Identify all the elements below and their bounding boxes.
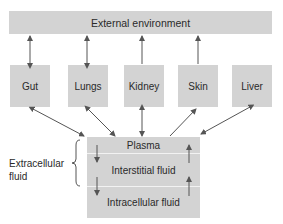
external-environment-box: External environment	[9, 11, 272, 34]
organ-gut: Gut	[10, 65, 50, 107]
organ-label: Skin	[188, 81, 207, 92]
organ-skin: Skin	[178, 65, 218, 107]
organ-label: Gut	[22, 81, 38, 92]
organ-label: Lungs	[74, 81, 101, 92]
arrow-plasma-skin	[170, 109, 196, 136]
extracellular-label-line2: fluid	[9, 170, 64, 183]
intracellular-layer: Intracellular fluid	[87, 187, 200, 218]
arrow-liver-plasma	[201, 107, 250, 134]
plasma-layer: Plasma	[87, 137, 200, 153]
organ-label: Liver	[241, 81, 263, 92]
intracellular-label: Intracellular fluid	[107, 197, 180, 208]
interstitial-layer: Interstitial fluid	[87, 154, 200, 186]
body-fluid-compartments: Plasma Interstitial fluid Intracellular …	[87, 137, 200, 218]
brace-icon	[72, 140, 80, 186]
organ-label: Kidney	[129, 81, 160, 92]
organ-lungs: Lungs	[68, 65, 108, 107]
arrow-lungs-plasma	[88, 109, 115, 136]
extracellular-label-line1: Extracellular	[9, 157, 64, 170]
plasma-label: Plasma	[127, 140, 160, 151]
extracellular-fluid-label: Extracellular fluid	[9, 157, 64, 183]
external-environment-label: External environment	[91, 17, 190, 29]
organ-kidney: Kidney	[124, 65, 164, 107]
organ-liver: Liver	[232, 65, 272, 107]
interstitial-label: Interstitial fluid	[112, 165, 176, 176]
arrow-gut-plasma	[33, 109, 84, 136]
